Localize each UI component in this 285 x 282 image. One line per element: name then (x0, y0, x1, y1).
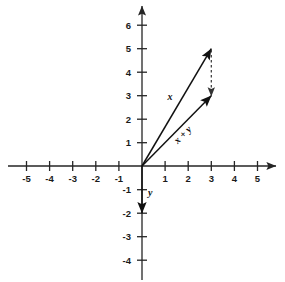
y-tick-label-5: 5 (126, 43, 132, 54)
vector-addition-figure: -5 -4 -3 -2 -1 1 2 3 4 5 6 5 4 3 2 1 -1 … (0, 0, 285, 282)
vector-sum-label: x + y (171, 123, 194, 146)
y-tick-label-6: 6 (126, 20, 131, 31)
x-tick-label--3: -3 (68, 173, 76, 184)
x-tick-label-3: 3 (209, 173, 214, 184)
vector-x-label: x (167, 91, 173, 102)
y-tick-label-3: 3 (126, 90, 131, 101)
y-tick-label--1: -1 (123, 184, 132, 195)
x-tick-label--1: -1 (115, 173, 124, 184)
cartesian-plot: -5 -4 -3 -2 -1 1 2 3 4 5 6 5 4 3 2 1 -1 … (0, 0, 285, 282)
y-tick-labels: 6 5 4 3 2 1 -1 -2 -3 -4 (123, 20, 132, 266)
y-tick-label--4: -4 (123, 255, 132, 266)
x-tick-label-2: 2 (186, 173, 191, 184)
y-tick-label--3: -3 (123, 231, 131, 242)
y-tick-label--2: -2 (123, 208, 131, 219)
x-tick-label-1: 1 (162, 173, 168, 184)
x-tick-label--5: -5 (22, 173, 31, 184)
y-tick-label-2: 2 (126, 114, 131, 125)
y-tick-label-1: 1 (126, 137, 132, 148)
x-tick-label--4: -4 (45, 173, 54, 184)
x-tick-label-5: 5 (255, 173, 261, 184)
vector-y-label: y (147, 187, 153, 198)
x-tick-label--2: -2 (92, 173, 100, 184)
vector-x-arrow (142, 49, 211, 166)
x-tick-label-4: 4 (232, 173, 238, 184)
y-tick-label-4: 4 (126, 67, 132, 78)
